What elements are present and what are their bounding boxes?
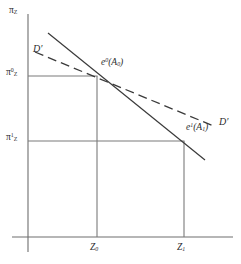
y-tick-label-pi1: π1Z [6, 133, 17, 143]
y-tick-1-subscript: Z [14, 136, 18, 142]
y-axis-label: πZ [9, 6, 17, 16]
y-axis-label-subscript: Z [14, 9, 18, 15]
x-tick-label-z1: Z1 [177, 243, 185, 253]
equilibrium-label-e0: e0(A0) [101, 58, 123, 68]
eq1-arg-open: (A [193, 122, 202, 132]
y-tick-label-pi0: π0Z [6, 68, 17, 78]
eq1-arg-close: ) [205, 122, 208, 132]
dashed-demand-curve [35, 52, 216, 127]
x-tick-0-subscript: 0 [95, 246, 98, 252]
eq0-arg-open: (A [108, 57, 117, 67]
y-tick-0-subscript: Z [14, 71, 18, 77]
equilibrium-label-e1: e1(A1) [186, 123, 208, 133]
curve-label-left: D′ [33, 44, 42, 54]
eq0-arg-close: ) [120, 57, 123, 67]
x-tick-label-z0: Z0 [90, 243, 98, 253]
curve-label-right: D′ [219, 117, 228, 127]
x-tick-1-subscript: 1 [182, 246, 185, 252]
economics-line-diagram: πZ π0Z π1Z Z0 Z1 D′ D′ e0(A0) e1(A1) [0, 0, 241, 264]
